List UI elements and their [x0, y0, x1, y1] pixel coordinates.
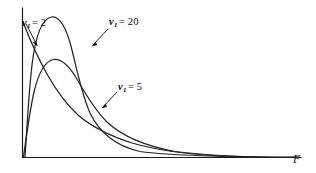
- leader-nu-20: [92, 29, 109, 47]
- f-distribution-chart: [0, 0, 316, 173]
- nu-value: = 2: [32, 17, 46, 28]
- nu-subscript: 1: [27, 22, 31, 30]
- nu-value: = 5: [128, 81, 142, 92]
- curve-nu-5: [24, 59, 300, 157]
- curve-nu-20: [25, 17, 299, 157]
- curve-nu-2: [23, 22, 299, 157]
- annotation-label-nu-20: ν1= 20: [109, 17, 139, 29]
- nu-value: = 20: [119, 16, 138, 27]
- annotation-label-nu-5: ν1= 5: [118, 82, 142, 94]
- leader-nu-5: [102, 92, 118, 109]
- nu-subscript: 1: [114, 21, 118, 29]
- x-axis-label: F: [293, 154, 300, 166]
- nu-subscript: 1: [123, 86, 127, 94]
- annotation-label-nu-2: ν1= 2: [22, 18, 46, 30]
